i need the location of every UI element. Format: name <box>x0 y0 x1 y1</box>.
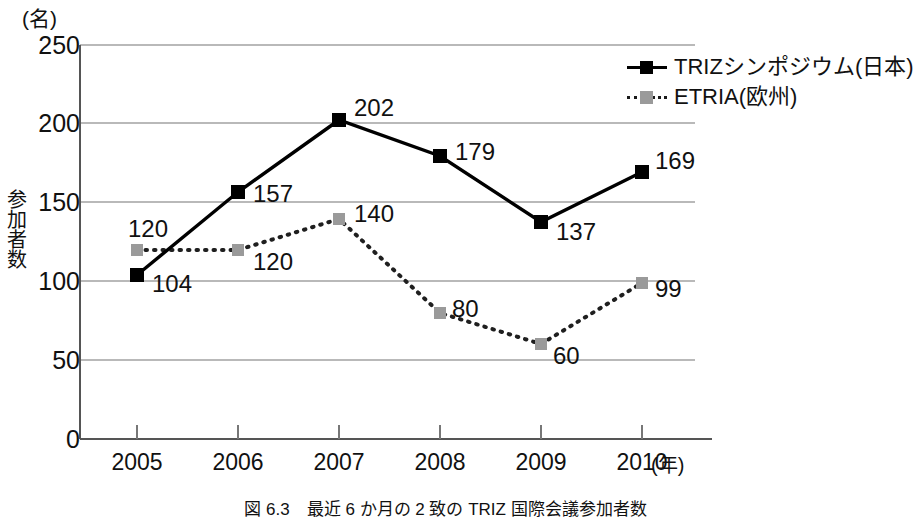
legend-key-etria-icon <box>627 90 667 104</box>
data-label-etria-2010: 99 <box>655 275 682 303</box>
data-label-triz-2009: 137 <box>556 218 596 246</box>
figure-caption: 図 6.3 最近 6 か月の 2 致の TRIZ 国際会議参加者数 <box>0 495 891 520</box>
legend-label-etria: ETRIA(欧州) <box>674 82 797 112</box>
data-point-triz-2010 <box>635 165 649 179</box>
data-point-triz-2006 <box>231 185 245 199</box>
data-point-etria-2008 <box>434 307 446 319</box>
data-label-etria-2008: 80 <box>452 295 479 323</box>
data-label-triz-2006: 157 <box>253 180 293 208</box>
data-point-triz-2007 <box>332 113 346 127</box>
x-tick-label-2009: 2009 <box>515 449 566 476</box>
x-tick-label-2008: 2008 <box>414 449 465 476</box>
chart-legend: TRIZシンポジウム(日本) ETRIA(欧州) <box>627 52 914 112</box>
data-point-etria-2006 <box>232 244 244 256</box>
data-label-etria-2006: 120 <box>253 248 293 276</box>
data-point-etria-2009 <box>535 338 547 350</box>
data-label-triz-2008: 179 <box>455 138 495 166</box>
data-point-triz-2009 <box>534 215 548 229</box>
data-label-triz-2005: 104 <box>152 270 192 298</box>
x-axis-unit-label: (年) <box>651 449 684 478</box>
data-label-etria-2005: 120 <box>128 215 168 243</box>
data-label-triz-2007: 202 <box>354 94 394 122</box>
x-tick-label-2006: 2006 <box>212 449 263 476</box>
data-point-triz-2005 <box>130 268 144 282</box>
data-point-etria-2010 <box>636 277 648 289</box>
x-tick-label-2007: 2007 <box>313 449 364 476</box>
data-point-etria-2005 <box>131 244 143 256</box>
data-label-etria-2009: 60 <box>553 342 580 370</box>
data-label-triz-2010: 169 <box>655 147 695 175</box>
legend-label-triz: TRIZシンポジウム(日本) <box>674 52 914 82</box>
legend-item-etria: ETRIA(欧州) <box>627 82 914 112</box>
data-label-etria-2007: 140 <box>354 200 394 228</box>
legend-item-triz: TRIZシンポジウム(日本) <box>627 52 914 82</box>
data-point-etria-2007 <box>333 213 345 225</box>
legend-key-triz-icon <box>627 60 667 74</box>
x-axis-ticks <box>137 425 642 439</box>
x-tick-label-2005: 2005 <box>111 449 162 476</box>
data-point-triz-2008 <box>433 149 447 163</box>
